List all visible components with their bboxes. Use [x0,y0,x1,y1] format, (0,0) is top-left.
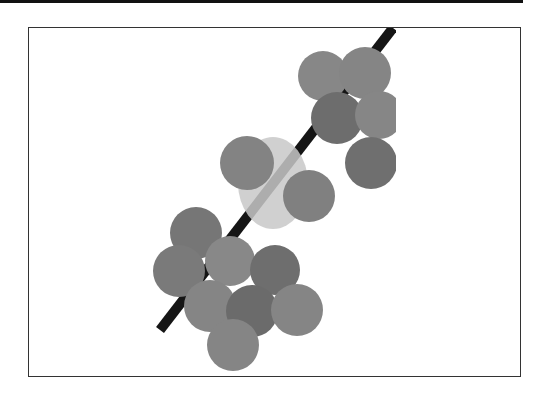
diagram-canvas [0,0,551,398]
disc-o [207,319,259,371]
disc-n [271,284,323,336]
discs-front [153,47,403,371]
disc-b [339,47,391,99]
disc-j [205,236,255,286]
disc-e [345,137,397,189]
disc-f [220,136,274,190]
disc-g [283,170,335,222]
disc-d [355,91,403,139]
